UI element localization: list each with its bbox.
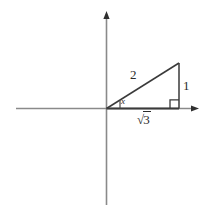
- right-angle-square-marker: [170, 100, 179, 109]
- triangle-hypotenuse: [107, 63, 180, 109]
- radical-argument: 3: [143, 111, 151, 127]
- y-axis-arrowhead-icon: [103, 11, 109, 19]
- hypotenuse-length-label: 2: [130, 68, 137, 81]
- x-axis-arrowhead-icon: [191, 105, 199, 111]
- figure-canvas: 2 1 √3 x: [0, 0, 207, 219]
- triangle-diagram-svg: [0, 0, 207, 219]
- angle-label: x: [121, 97, 125, 106]
- opposite-side-length-label: 1: [183, 79, 190, 92]
- adjacent-side-length-label: √3: [137, 113, 151, 126]
- radical-expression: √3: [137, 113, 151, 126]
